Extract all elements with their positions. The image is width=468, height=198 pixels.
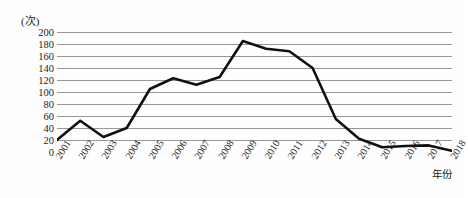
y-axis-tick: 100 [18,87,54,98]
y-axis-tick: 80 [18,99,54,110]
y-axis-tick: 20 [18,135,54,146]
gridlines [57,33,452,153]
y-axis-tick: 200 [18,27,54,38]
plot-area [57,32,452,152]
plot-svg [57,32,452,152]
y-axis-tick: 60 [18,111,54,122]
data-series-line [57,41,452,151]
x-axis-tick-labels: 2001200220032004200520062007200820092010… [57,153,452,193]
y-axis-tick-labels: 200180160140120100806040200 [18,26,54,152]
x-axis-label: 年份 [432,166,452,181]
y-axis-tick: 40 [18,123,54,134]
y-axis-tick: 0 [18,147,54,158]
y-axis-tick: 120 [18,75,54,86]
y-axis-tick: 160 [18,51,54,62]
y-axis-tick: 140 [18,63,54,74]
y-axis-tick: 180 [18,39,54,50]
